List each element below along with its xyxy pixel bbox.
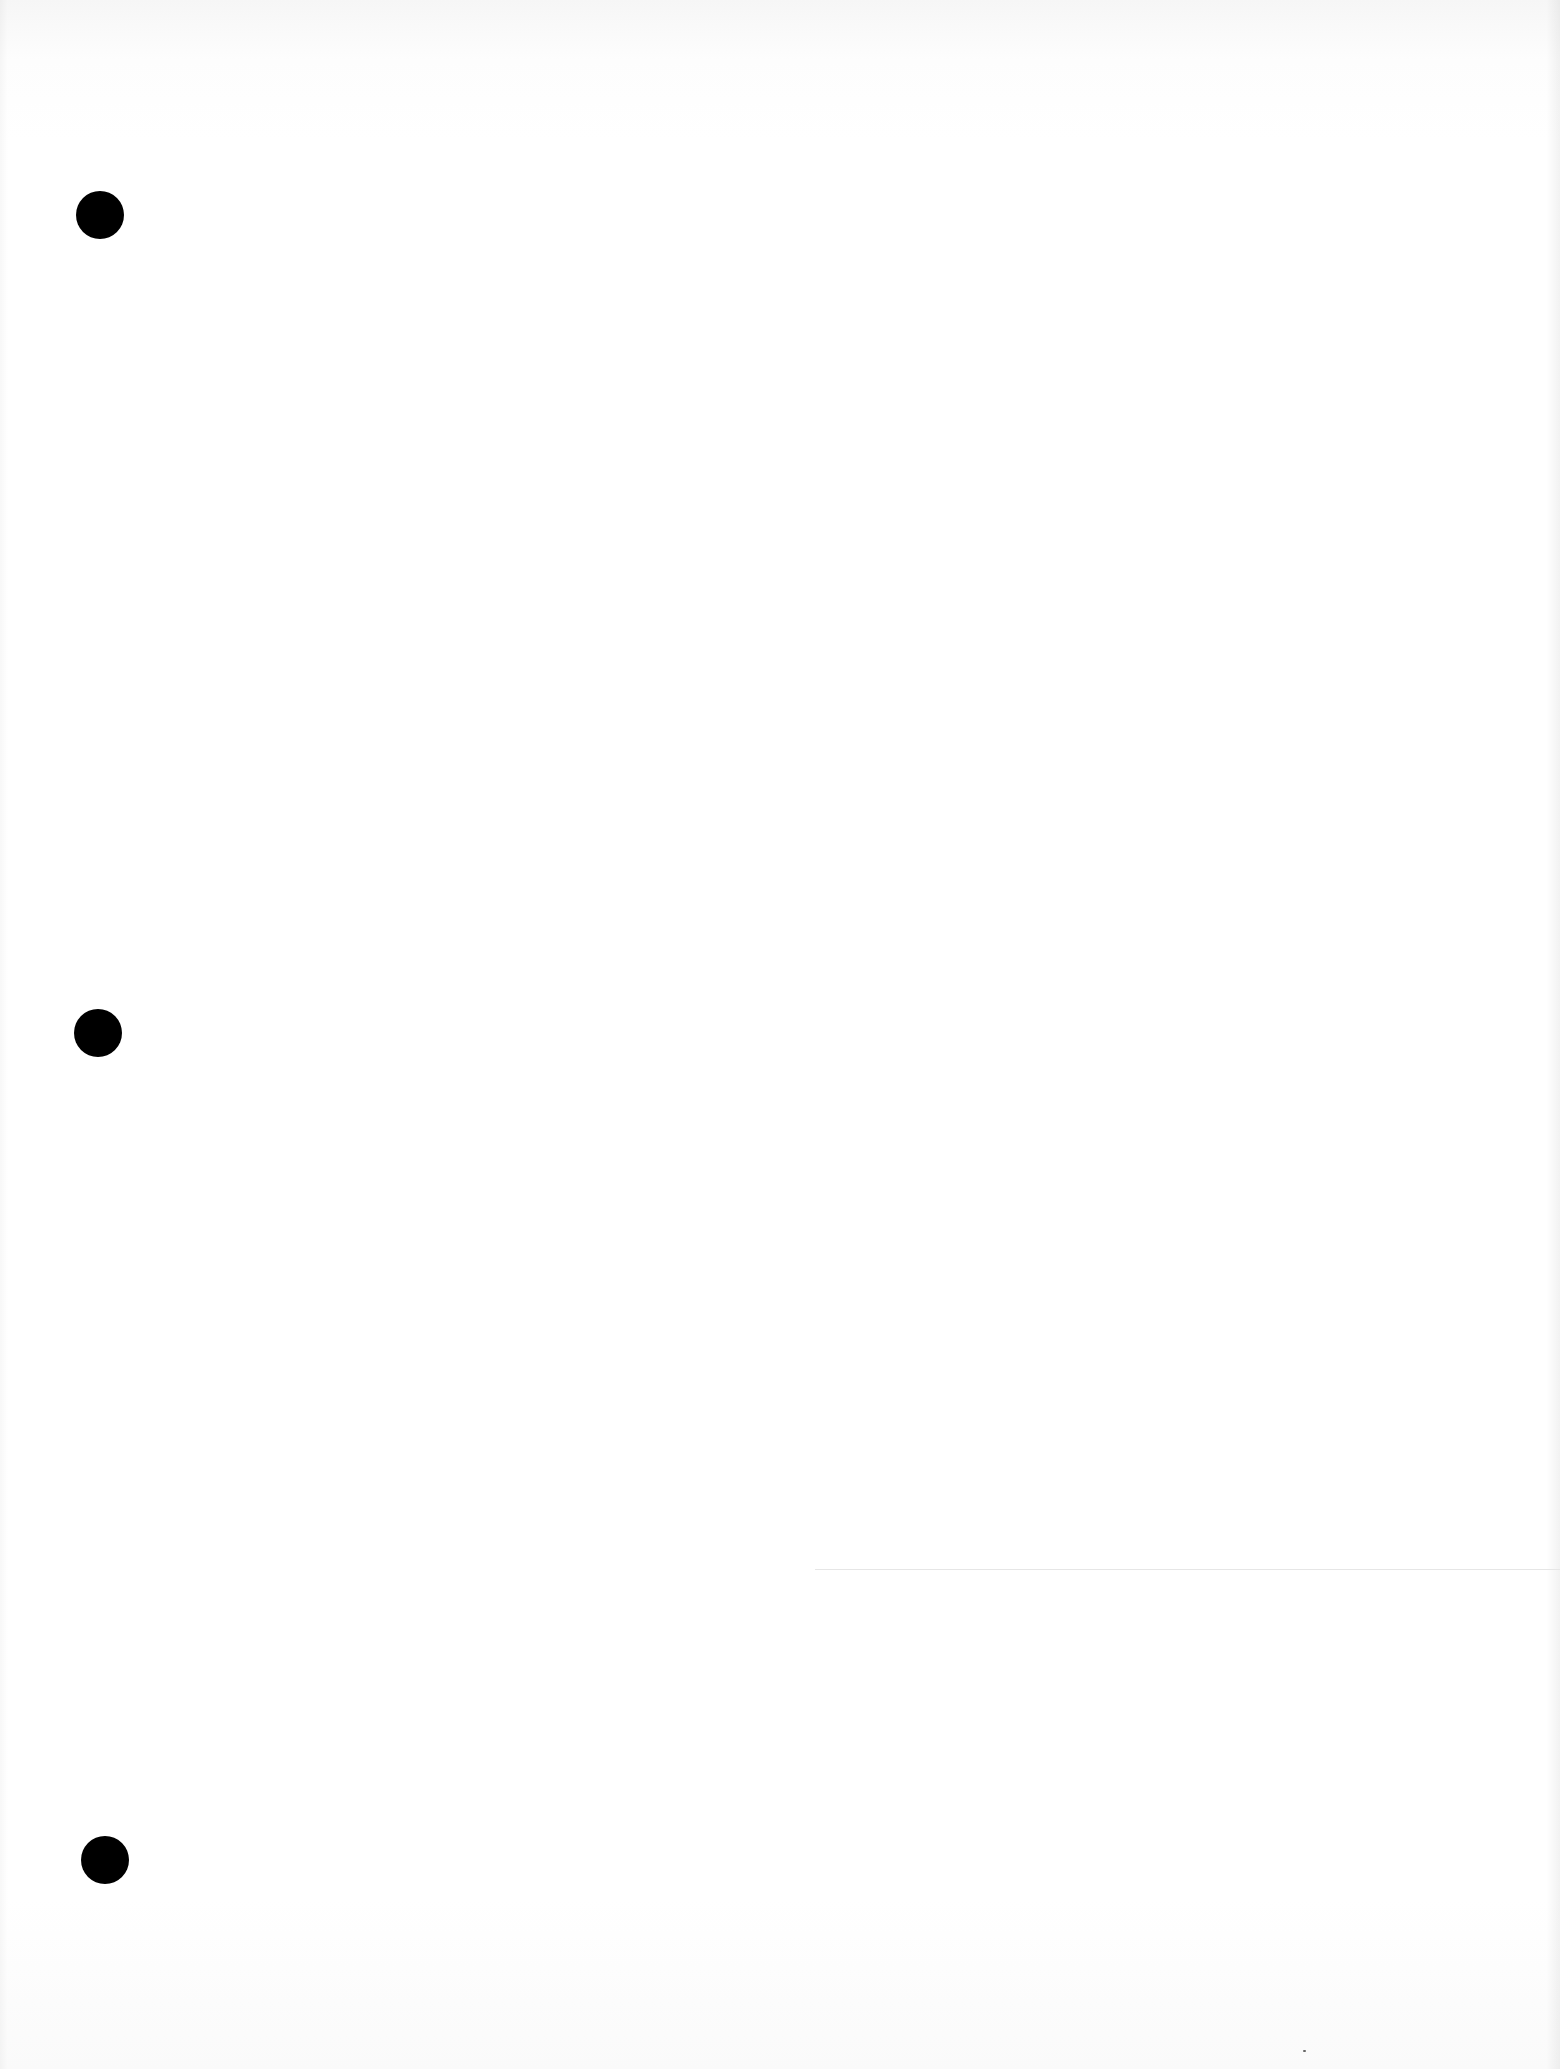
page-edge-right: [1546, 0, 1560, 2069]
scan-artifact-speck: [1303, 2050, 1306, 2052]
punch-hole-bottom: [81, 1836, 129, 1884]
page-edge-left: [0, 0, 8, 2069]
punch-hole-top: [76, 191, 124, 239]
punch-hole-middle: [74, 1009, 122, 1057]
scan-artifact-line: [815, 1569, 1560, 1570]
scanned-page: [0, 0, 1560, 2069]
